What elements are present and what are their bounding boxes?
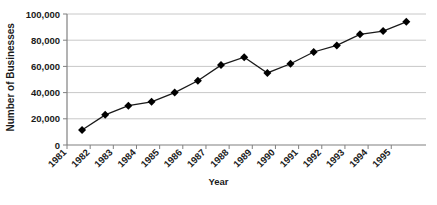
data-point-marker [148, 98, 156, 106]
data-point-marker [379, 27, 387, 35]
x-axis-tick-label: 1994 [347, 146, 370, 169]
data-point-marker [310, 48, 318, 56]
data-point-marker [333, 41, 341, 49]
data-point-marker [171, 89, 179, 97]
y-axis-tick-label: 100,000 [26, 9, 60, 20]
y-axis-tick-label: 80,000 [31, 35, 60, 46]
data-point-marker [124, 102, 132, 110]
x-axis-tick-label: 1990 [254, 147, 277, 170]
x-axis-tick-label: 1992 [300, 147, 323, 170]
gridlines-group [67, 14, 426, 119]
data-point-marker [78, 126, 86, 134]
x-axis-tick-label: 1988 [208, 147, 231, 170]
x-axis-tick-label: 1995 [370, 146, 393, 169]
data-point-marker [194, 77, 202, 85]
series-line-number-of-businesses [82, 22, 406, 130]
x-axis-tick-label: 1981 [46, 146, 69, 169]
data-point-marker [217, 61, 225, 69]
x-axis-tick-labels-group: 1981198219831984198519861987198819891990… [46, 146, 393, 169]
x-axis-tick-label: 1984 [115, 146, 138, 169]
x-axis-tick-label: 1982 [69, 147, 92, 170]
data-point-marker [240, 53, 248, 61]
x-axis-tick-label: 1983 [92, 147, 115, 170]
series-markers-group [78, 18, 410, 134]
x-axis-ticks-group [67, 145, 391, 149]
x-axis-title: Year [0, 176, 437, 187]
x-axis-tick-label: 1986 [161, 147, 184, 170]
data-point-marker [356, 30, 364, 38]
data-point-marker [101, 111, 109, 119]
x-axis-tick-label: 1993 [324, 147, 347, 170]
chart-plot-area: 020,00040,00060,00080,000100,000 1981198… [0, 0, 437, 205]
y-axis-tick-label: 20,000 [31, 113, 60, 124]
data-point-marker [263, 69, 271, 77]
data-point-marker [402, 18, 410, 26]
y-axis-tick-label: 60,000 [31, 61, 60, 72]
line-chart: Number of Businesses 020,00040,00060,000… [0, 0, 437, 205]
x-axis-tick-label: 1989 [231, 147, 254, 170]
x-axis-tick-label: 1991 [277, 146, 300, 169]
y-axis-tick-label: 40,000 [31, 87, 60, 98]
y-axis-ticks-group: 020,00040,00060,00080,000100,000 [26, 9, 67, 151]
x-axis-tick-label: 1985 [138, 146, 161, 169]
x-axis-tick-label: 1987 [185, 147, 208, 170]
